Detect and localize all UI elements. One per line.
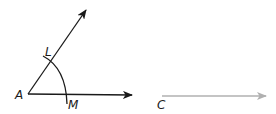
compass-arc [43, 56, 67, 104]
label-C: C [157, 98, 166, 112]
angle-construction-diagram: A L M C [0, 0, 276, 114]
ray-AM [28, 94, 132, 95]
label-A: A [14, 88, 23, 102]
label-M: M [68, 98, 79, 112]
label-L: L [45, 45, 52, 59]
ray-AL [28, 10, 86, 94]
